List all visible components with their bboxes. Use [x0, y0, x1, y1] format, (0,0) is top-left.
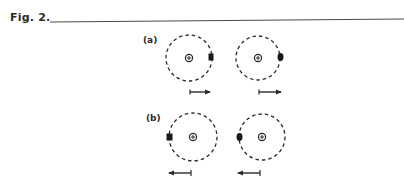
panel-a — [166, 35, 284, 95]
electron-square — [209, 54, 214, 61]
panel-b — [167, 113, 286, 176]
atom-a2 — [236, 36, 284, 95]
electron-oval — [237, 133, 243, 141]
electron-square — [167, 134, 173, 141]
arrow-right-icon — [259, 90, 281, 95]
arrow-left-icon — [169, 170, 191, 176]
nucleus-plus-icon — [254, 54, 261, 61]
arrow-left-icon — [238, 170, 260, 176]
atom-b1 — [167, 113, 218, 176]
title-rule — [50, 19, 404, 22]
nucleus-plus-icon — [185, 54, 192, 61]
figure-diagram — [0, 0, 404, 185]
nucleus-plus-icon — [258, 133, 265, 140]
nucleus-plus-icon — [189, 133, 196, 140]
atom-b2 — [237, 114, 286, 176]
atom-a1 — [166, 35, 214, 95]
electron-oval — [278, 53, 284, 61]
arrow-right-icon — [190, 90, 210, 95]
